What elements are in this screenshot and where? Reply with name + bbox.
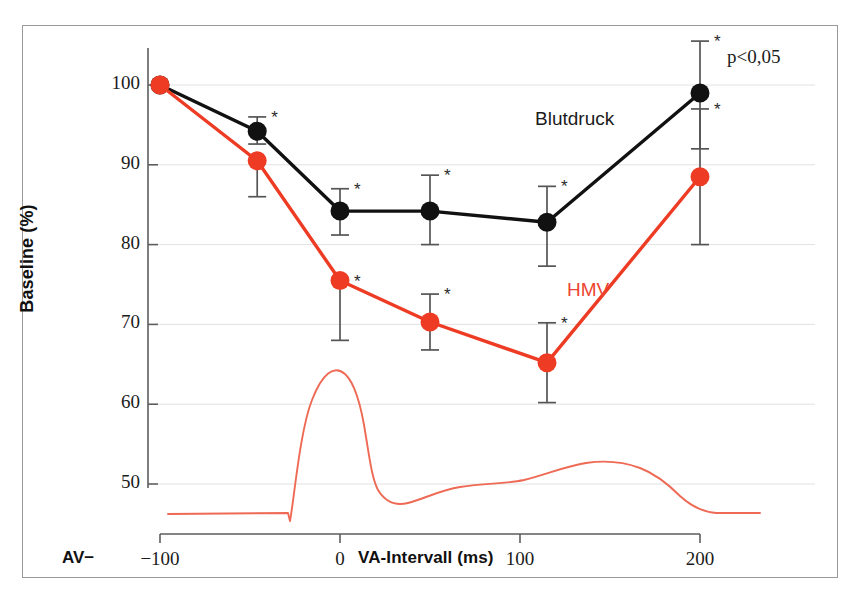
y-tick-label: 90 [92,152,140,174]
significance-asterisk: * [354,273,361,290]
significance-asterisk: * [271,109,278,126]
y-tick-label: 50 [92,471,140,493]
x-tick-label: 100 [485,548,555,570]
y-tick-label: 80 [92,232,140,254]
y-tick-label: 70 [92,311,140,333]
y-axis-title: Baseline (%) [17,164,38,354]
significance-asterisk: * [714,101,721,118]
data-series [151,41,710,402]
x-axis-title: VA-Intervall (ms) [358,548,494,568]
x-tick-label: −100 [125,548,195,570]
x-tick-label: 200 [665,548,735,570]
significance-asterisk: * [561,178,568,195]
y-tick-label: 60 [92,391,140,413]
series-label-blutdruck: Blutdruck [535,108,614,130]
axes [148,48,700,543]
series-label-hmv: HMV [567,279,609,301]
p-value-annotation: p<0,05 [727,46,780,68]
significance-asterisk: * [354,181,361,198]
av-prefix-label: AV− [62,548,94,568]
significance-asterisk: * [444,286,451,303]
significance-asterisk: * [561,315,568,332]
significance-asterisk: * [444,167,451,184]
x-tick-label: 0 [305,548,375,570]
y-tick-label: 100 [92,72,140,94]
aortic-flow-waveform [168,370,760,521]
figure-root: Baseline (%) VA-Intervall (ms) AV− Blutd… [0,0,850,610]
significance-asterisk: * [714,33,721,50]
